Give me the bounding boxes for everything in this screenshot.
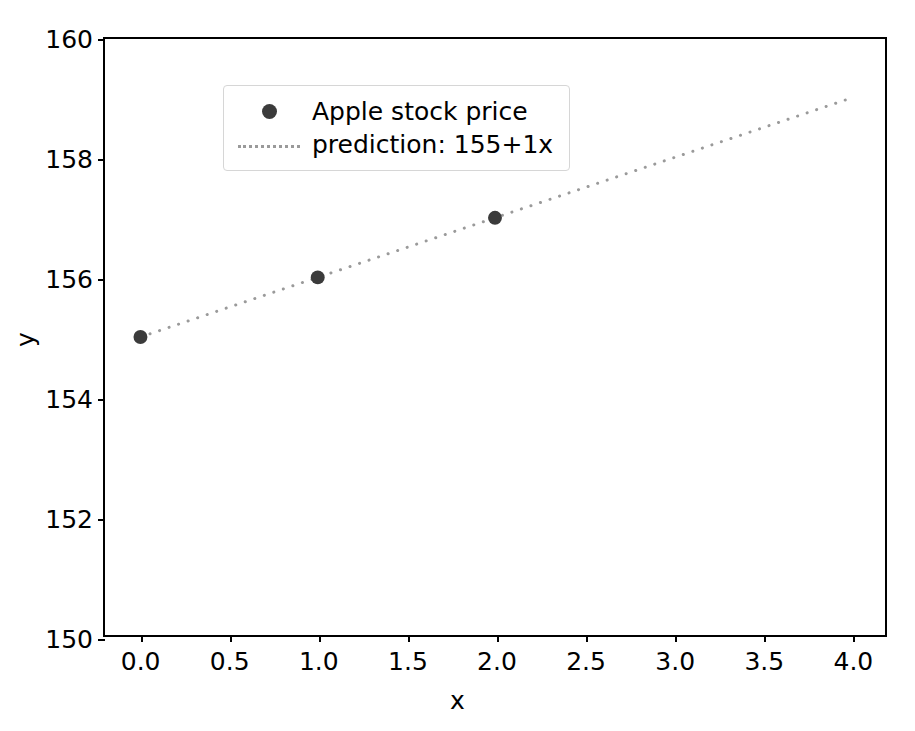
y-tick-label: 154 <box>45 387 93 412</box>
x-tick-label: 0.5 <box>210 649 250 674</box>
x-tick-mark <box>230 635 232 642</box>
legend-entry-apple-stock-price: Apple stock price <box>236 95 553 128</box>
x-tick-mark <box>319 635 321 642</box>
x-tick-mark <box>675 635 677 642</box>
chart-figure: y x 150152154156158160 0.00.51.01.52.02.… <box>0 0 915 731</box>
legend-dotted-line-icon <box>236 135 302 155</box>
legend-label: prediction: 155+1x <box>312 132 553 157</box>
y-tick-label: 152 <box>45 507 93 532</box>
x-tick-label: 0.0 <box>121 649 161 674</box>
y-tick-label: 150 <box>45 627 93 652</box>
y-tick-label: 158 <box>45 147 93 172</box>
x-tick-label: 1.0 <box>299 649 339 674</box>
y-tick-mark <box>98 39 105 41</box>
legend-marker-dot-icon <box>236 102 302 122</box>
x-tick-label: 3.5 <box>744 649 784 674</box>
x-tick-mark <box>497 635 499 642</box>
x-tick-label: 2.5 <box>566 649 606 674</box>
x-tick-mark <box>853 635 855 642</box>
legend: Apple stock price prediction: 155+1x <box>223 85 570 171</box>
y-tick-mark <box>98 279 105 281</box>
x-tick-label: 4.0 <box>833 649 873 674</box>
stock-price-markers <box>133 211 501 344</box>
legend-entry-prediction: prediction: 155+1x <box>236 128 553 161</box>
y-tick-label: 156 <box>45 267 93 292</box>
x-tick-label: 1.5 <box>388 649 428 674</box>
x-tick-mark <box>586 635 588 642</box>
x-tick-mark <box>408 635 410 642</box>
y-axis-label: y <box>11 332 40 347</box>
x-tick-label: 2.0 <box>477 649 517 674</box>
x-tick-mark <box>764 635 766 642</box>
data-point-marker <box>488 211 502 225</box>
data-point-marker <box>311 270 325 284</box>
y-tick-mark <box>98 399 105 401</box>
y-tick-mark <box>98 159 105 161</box>
x-axis-label: x <box>0 686 915 715</box>
x-tick-label: 3.0 <box>655 649 695 674</box>
legend-label: Apple stock price <box>312 99 528 124</box>
data-point-marker <box>133 330 147 344</box>
y-tick-mark <box>98 519 105 521</box>
y-tick-label: 160 <box>45 27 93 52</box>
x-tick-mark <box>141 635 143 642</box>
y-tick-mark <box>98 639 105 641</box>
plot-area: 150152154156158160 0.00.51.01.52.02.53.0… <box>103 37 887 637</box>
